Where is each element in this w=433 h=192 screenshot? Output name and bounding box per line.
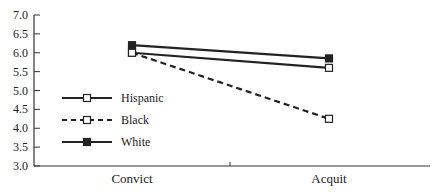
legend-label: Black <box>121 113 149 127</box>
legend-item-black: Black <box>62 113 149 127</box>
legend-label: Hispanic <box>121 91 164 105</box>
y-tick-label: 6.0 <box>13 46 28 60</box>
y-tick-label: 4.0 <box>13 121 28 135</box>
data-point-marker <box>129 49 136 56</box>
x-tick-label: Convict <box>111 171 153 186</box>
data-point-marker <box>129 42 136 49</box>
data-point-marker <box>326 64 333 71</box>
y-tick-label: 5.0 <box>13 84 28 98</box>
legend-marker <box>84 139 91 146</box>
y-tick-label: 3.5 <box>13 140 28 154</box>
y-tick-label: 7.0 <box>13 8 28 22</box>
series-line <box>132 53 329 68</box>
legend-marker <box>84 117 91 124</box>
y-tick-label: 3.0 <box>13 159 28 173</box>
legend-marker <box>84 95 91 102</box>
data-point-marker <box>326 55 333 62</box>
legend-item-hispanic: Hispanic <box>62 91 164 105</box>
series-line <box>132 53 329 119</box>
legend-label: White <box>121 135 150 149</box>
legend: HispanicBlackWhite <box>62 91 164 149</box>
x-tick-label: Acquit <box>311 171 347 186</box>
data-point-marker <box>326 115 333 122</box>
series-line <box>132 45 329 58</box>
series-white <box>129 42 333 62</box>
y-tick-label: 6.5 <box>13 27 28 41</box>
y-tick-label: 5.5 <box>13 65 28 79</box>
legend-item-white: White <box>62 135 150 149</box>
y-tick-label: 4.5 <box>13 102 28 116</box>
line-chart: 3.03.54.04.55.05.56.06.57.0ConvictAcquit… <box>0 0 433 192</box>
